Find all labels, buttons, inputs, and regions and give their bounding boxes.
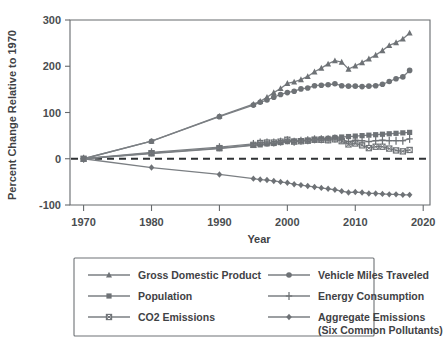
data-point xyxy=(278,92,284,98)
data-point xyxy=(339,83,345,89)
x-tick-label: 2010 xyxy=(343,216,367,228)
legend-label: Aggregate Emissions xyxy=(318,311,426,323)
legend-label: Population xyxy=(138,290,192,302)
data-point xyxy=(312,83,318,89)
data-point xyxy=(332,81,338,87)
data-point xyxy=(359,84,365,90)
data-point xyxy=(380,81,386,87)
data-point xyxy=(346,83,352,89)
data-point xyxy=(217,114,223,120)
x-tick-label: 2000 xyxy=(275,216,299,228)
data-point xyxy=(386,79,392,85)
data-point xyxy=(400,130,405,135)
y-tick-label: 300 xyxy=(43,14,61,26)
data-point xyxy=(291,88,297,94)
data-point xyxy=(373,83,379,89)
legend-label-secondline: (Six Common Pollutants) xyxy=(318,324,443,336)
data-point xyxy=(366,133,371,138)
data-point xyxy=(319,82,325,88)
data-point xyxy=(380,132,385,137)
legend-label: Energy Consumption xyxy=(318,290,424,302)
data-point xyxy=(393,131,398,136)
legend-label: Vehicle Miles Traveled xyxy=(318,269,429,281)
emissions-trends-line-chart: -1000100200300 197019801990200020102020 … xyxy=(0,0,448,343)
data-point xyxy=(352,83,358,89)
data-point xyxy=(366,83,372,89)
data-point xyxy=(387,131,392,136)
legend-label: Gross Domestic Product xyxy=(138,269,262,281)
y-tick-label: 200 xyxy=(43,60,61,72)
data-point xyxy=(393,76,399,82)
data-point xyxy=(149,138,155,144)
chart-figure: -1000100200300 197019801990200020102020 … xyxy=(0,0,448,343)
data-point xyxy=(373,132,378,137)
y-tick-label: 100 xyxy=(43,107,61,119)
y-axis-title: Percent Change Relative to 1970 xyxy=(6,30,18,200)
x-tick-label: 1970 xyxy=(71,216,95,228)
x-tick-label: 1980 xyxy=(139,216,163,228)
legend-marker-icon xyxy=(286,272,292,278)
x-tick-label: 2020 xyxy=(411,216,435,228)
data-point xyxy=(298,86,304,92)
y-tick-label: -100 xyxy=(39,199,61,211)
data-point xyxy=(400,74,406,80)
data-point xyxy=(257,100,263,106)
data-point xyxy=(407,68,413,74)
data-point xyxy=(285,90,291,96)
data-point xyxy=(305,85,311,91)
chart-legend: Gross Domestic ProductVehicle Miles Trav… xyxy=(74,258,443,336)
legend-label: CO2 Emissions xyxy=(138,311,215,323)
legend-marker-icon xyxy=(106,293,111,298)
data-point xyxy=(264,97,270,103)
x-axis-title: Year xyxy=(247,233,271,245)
data-point xyxy=(407,130,412,135)
data-point xyxy=(251,102,257,108)
x-tick-label: 1990 xyxy=(207,216,231,228)
data-point xyxy=(325,82,331,88)
data-point xyxy=(271,94,277,100)
y-tick-label: 0 xyxy=(55,153,61,165)
